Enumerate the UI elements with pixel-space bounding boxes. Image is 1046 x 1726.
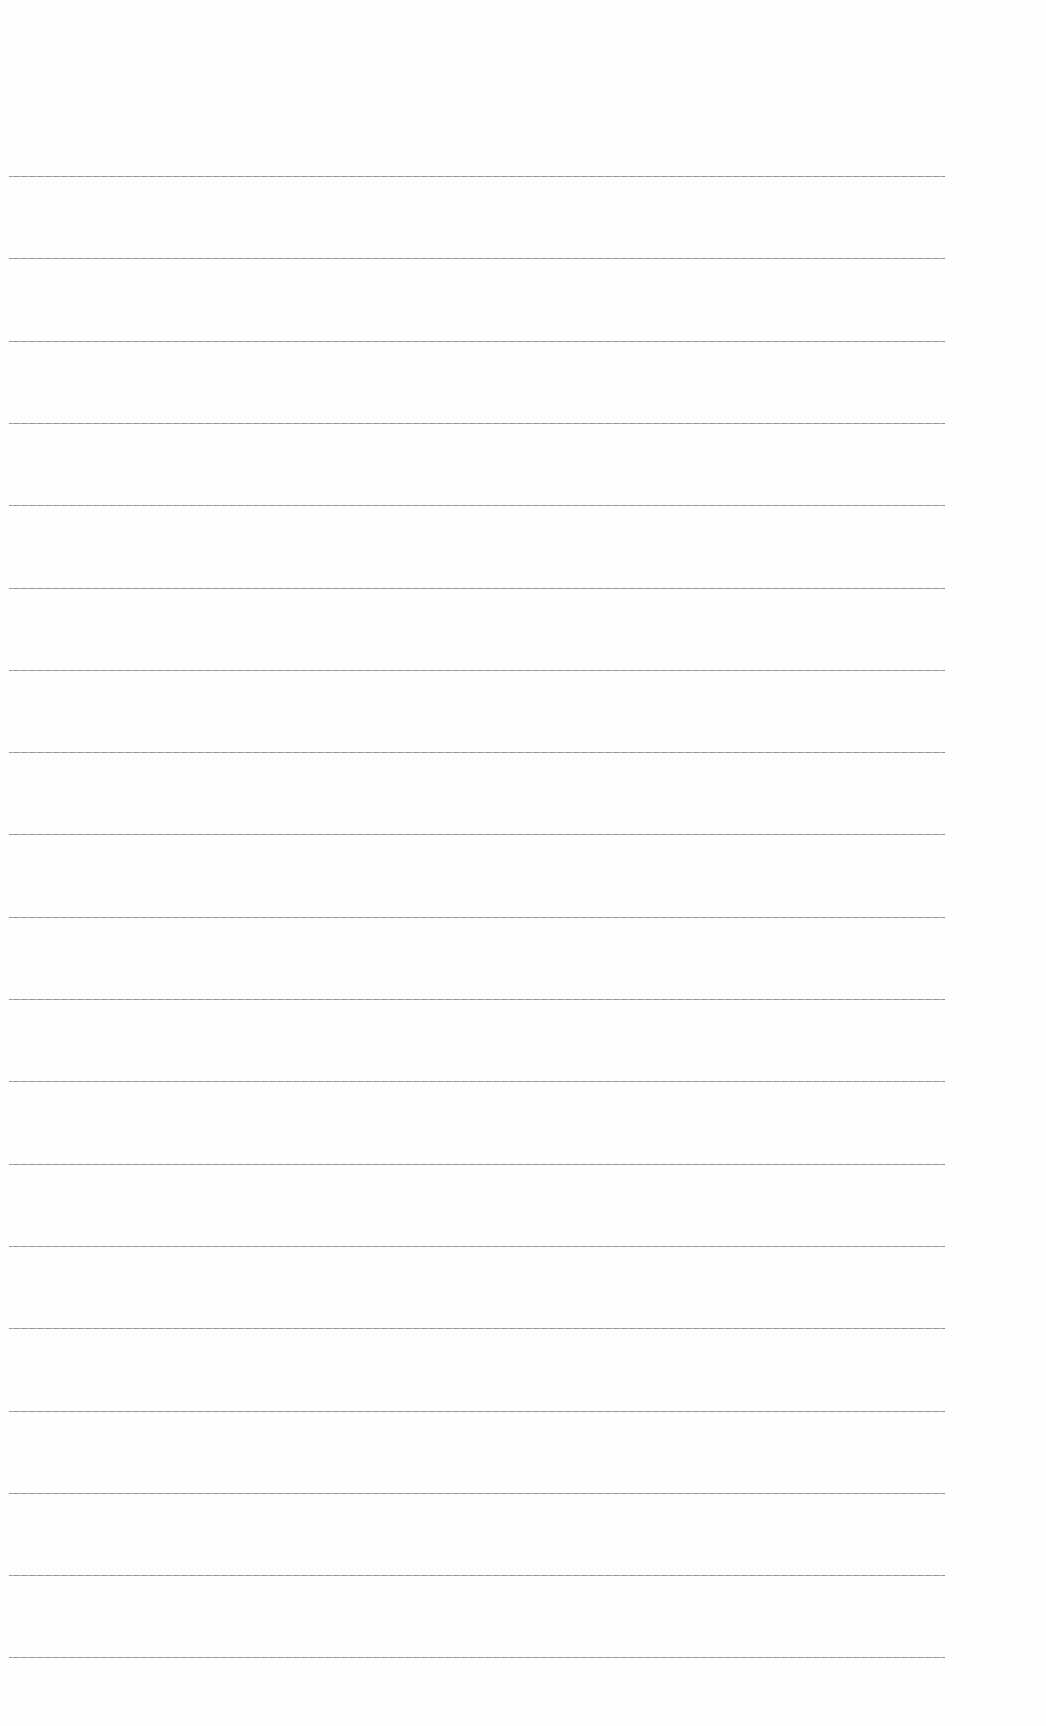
ruled-line <box>9 1246 945 1247</box>
ruled-line <box>9 258 945 259</box>
ruled-line <box>9 834 945 835</box>
ruled-line <box>9 917 945 918</box>
ruled-line <box>9 423 945 424</box>
ruled-line <box>9 1411 945 1412</box>
ruled-line <box>9 1493 945 1494</box>
ruled-line <box>9 1657 945 1658</box>
ruled-line <box>9 1164 945 1165</box>
ruled-line <box>9 999 945 1000</box>
ruled-line <box>9 588 945 589</box>
lined-paper-sheet <box>0 0 1046 1726</box>
ruled-line <box>9 670 945 671</box>
ruled-line <box>9 176 945 177</box>
ruled-line <box>9 752 945 753</box>
ruled-line <box>9 1081 945 1082</box>
ruled-line <box>9 505 945 506</box>
ruled-line <box>9 341 945 342</box>
ruled-line <box>9 1328 945 1329</box>
ruled-line <box>9 1575 945 1576</box>
